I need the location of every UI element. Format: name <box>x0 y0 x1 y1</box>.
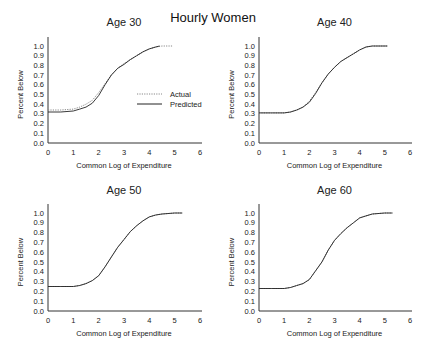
y-tick-label: 0.7 <box>245 71 255 80</box>
y-tick-label: 0.7 <box>34 238 44 247</box>
series-line-actual <box>259 46 387 113</box>
y-axis-label: Percent Below <box>16 70 25 119</box>
y-tick-label: 0.5 <box>245 90 255 99</box>
x-axis-label: Common Log of Expenditure <box>76 329 171 338</box>
y-tick-label: 0.1 <box>245 129 255 138</box>
series-line-actual <box>48 46 172 110</box>
x-tick-label: 2 <box>307 316 311 325</box>
y-tick-label: 1.0 <box>34 42 44 51</box>
y-tick-label: 0.8 <box>245 228 255 237</box>
y-tick-label: 0.9 <box>245 51 255 60</box>
x-tick-label: 4 <box>358 316 362 325</box>
charts-canvas: Age 300.00.10.20.30.40.50.60.70.80.91.00… <box>0 0 426 352</box>
y-tick-label: 0.8 <box>34 61 44 70</box>
y-tick-label: 0.5 <box>34 90 44 99</box>
y-tick-label: 1.0 <box>245 209 255 218</box>
x-tick-label: 5 <box>173 316 177 325</box>
x-tick-label: 3 <box>122 316 126 325</box>
chart-title: Age 40 <box>317 16 352 28</box>
x-tick-label: 3 <box>332 148 336 157</box>
y-tick-label: 0.2 <box>34 119 44 128</box>
x-tick-label: 0 <box>46 148 50 157</box>
y-tick-label: 0.0 <box>34 307 44 316</box>
y-tick-label: 0.5 <box>34 258 44 267</box>
figure: Hourly Women Age 300.00.10.20.30.40.50.6… <box>0 0 426 352</box>
y-tick-label: 0.6 <box>34 248 44 257</box>
x-axis-label: Common Log of Expenditure <box>76 161 171 170</box>
legend-label-actual: Actual <box>170 90 191 99</box>
y-tick-label: 0.6 <box>34 80 44 89</box>
y-tick-label: 0.4 <box>245 267 255 276</box>
y-tick-label: 0.9 <box>34 218 44 227</box>
chart-panel-age-40: Age 400.00.10.20.30.40.50.60.70.80.91.00… <box>227 16 412 170</box>
y-tick-label: 0.3 <box>245 109 255 118</box>
x-tick-label: 6 <box>198 316 202 325</box>
x-tick-label: 1 <box>71 316 75 325</box>
series-line-predicted <box>259 213 392 289</box>
x-tick-label: 5 <box>383 148 387 157</box>
x-tick-label: 1 <box>282 316 286 325</box>
y-tick-label: 0.4 <box>245 100 255 109</box>
y-tick-label: 0.2 <box>245 119 255 128</box>
x-tick-label: 2 <box>307 148 311 157</box>
x-axis-label: Common Log of Expenditure <box>287 161 382 170</box>
x-tick-label: 6 <box>408 148 412 157</box>
x-tick-label: 4 <box>147 316 151 325</box>
chart-panel-age-60: Age 600.00.10.20.30.40.50.60.70.80.91.00… <box>227 184 412 338</box>
series-line-predicted <box>259 46 387 113</box>
x-tick-label: 3 <box>122 148 126 157</box>
y-tick-label: 0.3 <box>245 277 255 286</box>
y-tick-label: 1.0 <box>34 209 44 218</box>
y-tick-label: 0.6 <box>245 248 255 257</box>
y-axis-label: Percent Below <box>16 237 25 286</box>
x-tick-label: 5 <box>383 316 387 325</box>
x-tick-label: 4 <box>147 148 151 157</box>
y-tick-label: 0.7 <box>245 238 255 247</box>
y-tick-label: 0.2 <box>34 287 44 296</box>
y-axis-label: Percent Below <box>227 237 236 286</box>
y-axis-label: Percent Below <box>227 70 236 119</box>
y-tick-label: 0.3 <box>34 277 44 286</box>
y-tick-label: 0.9 <box>245 218 255 227</box>
x-tick-label: 0 <box>257 316 261 325</box>
x-tick-label: 1 <box>282 148 286 157</box>
x-tick-label: 2 <box>97 148 101 157</box>
y-tick-label: 0.8 <box>245 61 255 70</box>
series-line-predicted <box>48 213 182 287</box>
y-tick-label: 0.0 <box>34 139 44 148</box>
y-tick-label: 0.3 <box>34 109 44 118</box>
y-tick-label: 1.0 <box>245 42 255 51</box>
y-tick-label: 0.0 <box>245 139 255 148</box>
y-tick-label: 0.6 <box>245 80 255 89</box>
chart-panel-age-30: Age 300.00.10.20.30.40.50.60.70.80.91.00… <box>16 16 202 170</box>
y-tick-label: 0.1 <box>245 297 255 306</box>
x-tick-label: 2 <box>97 316 101 325</box>
x-tick-label: 6 <box>408 316 412 325</box>
y-tick-label: 0.7 <box>34 71 44 80</box>
y-tick-label: 0.0 <box>245 307 255 316</box>
x-axis-label: Common Log of Expenditure <box>287 329 382 338</box>
x-tick-label: 0 <box>46 316 50 325</box>
x-tick-label: 6 <box>198 148 202 157</box>
chart-legend: ActualPredicted <box>137 90 202 109</box>
y-tick-label: 0.1 <box>34 297 44 306</box>
y-tick-label: 0.5 <box>245 258 255 267</box>
y-tick-label: 0.4 <box>34 100 44 109</box>
legend-label-predicted: Predicted <box>170 100 202 109</box>
series-line-actual <box>259 213 392 289</box>
chart-panel-age-50: Age 500.00.10.20.30.40.50.60.70.80.91.00… <box>16 184 202 338</box>
chart-title: Age 60 <box>317 184 352 196</box>
x-tick-label: 0 <box>257 148 261 157</box>
y-tick-label: 0.2 <box>245 287 255 296</box>
x-tick-label: 5 <box>173 148 177 157</box>
y-tick-label: 0.8 <box>34 228 44 237</box>
y-tick-label: 0.1 <box>34 129 44 138</box>
chart-title: Age 50 <box>107 184 142 196</box>
y-tick-label: 0.9 <box>34 51 44 60</box>
y-tick-label: 0.4 <box>34 267 44 276</box>
chart-title: Age 30 <box>107 16 142 28</box>
x-tick-label: 4 <box>358 148 362 157</box>
x-tick-label: 3 <box>332 316 336 325</box>
series-line-predicted <box>48 46 160 112</box>
x-tick-label: 1 <box>71 148 75 157</box>
